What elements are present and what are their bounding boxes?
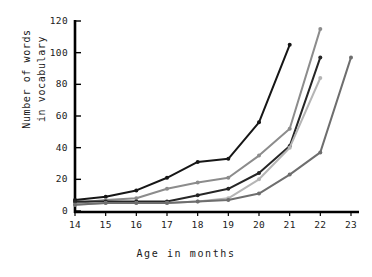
y-tick-40: 40 (42, 142, 68, 153)
x-tick-17: 17 (155, 219, 179, 230)
y-tick-120: 120 (42, 15, 68, 26)
plot-canvas (0, 0, 372, 277)
data-point (226, 187, 230, 191)
data-point (257, 177, 261, 181)
data-point (196, 200, 200, 204)
x-tick-14: 14 (63, 219, 87, 230)
data-point (318, 150, 322, 154)
x-tick-22: 22 (308, 219, 332, 230)
data-series (73, 27, 353, 207)
x-tick-19: 19 (216, 219, 240, 230)
data-point (288, 146, 292, 150)
data-point (73, 203, 77, 207)
data-point (288, 173, 292, 177)
data-point (257, 171, 261, 175)
x-tick-20: 20 (247, 219, 271, 230)
axes (74, 20, 359, 216)
x-tick-21: 21 (278, 219, 302, 230)
data-point (349, 55, 353, 59)
data-point (165, 176, 169, 180)
data-point (318, 76, 322, 80)
data-point (318, 27, 322, 31)
data-point (226, 157, 230, 161)
y-tick-20: 20 (42, 173, 68, 184)
data-point (196, 193, 200, 197)
data-point (165, 201, 169, 205)
x-tick-18: 18 (186, 219, 210, 230)
series-child-4 (73, 76, 322, 207)
data-point (288, 127, 292, 131)
x-tick-16: 16 (124, 219, 148, 230)
x-tick-23: 23 (339, 219, 363, 230)
data-point (288, 43, 292, 47)
vocabulary-growth-chart: Number of words in vocabulary Age in mon… (0, 0, 372, 277)
data-point (134, 201, 138, 205)
data-point (134, 188, 138, 192)
data-point (196, 181, 200, 185)
data-point (318, 55, 322, 59)
y-tick-60: 60 (42, 110, 68, 121)
data-point (257, 192, 261, 196)
data-point (165, 187, 169, 191)
y-tick-80: 80 (42, 78, 68, 89)
data-point (257, 154, 261, 158)
y-tick-0: 0 (42, 205, 68, 216)
data-point (257, 120, 261, 124)
data-point (226, 176, 230, 180)
x-tick-15: 15 (94, 219, 118, 230)
y-tick-100: 100 (42, 47, 68, 58)
data-point (226, 198, 230, 202)
data-point (104, 201, 108, 205)
series-child-5 (73, 55, 353, 206)
data-point (196, 160, 200, 164)
